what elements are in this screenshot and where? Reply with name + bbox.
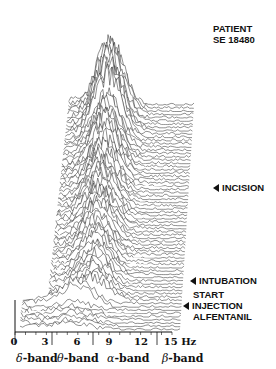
x-tick-15: 15 Hz bbox=[164, 336, 197, 347]
band-suffix: -band bbox=[114, 352, 149, 365]
band-suffix: -band bbox=[23, 352, 58, 365]
arrow-left-icon bbox=[183, 302, 189, 310]
patient-id: SE 18480 bbox=[213, 34, 255, 45]
theta-band-label: θ-band bbox=[57, 352, 99, 365]
patient-label-line1: PATIENT bbox=[213, 23, 255, 34]
x-tick-6: 6 bbox=[74, 336, 81, 347]
incision-label: INCISION bbox=[222, 182, 264, 193]
delta-symbol: δ bbox=[16, 352, 23, 365]
beta-band-label: β-band bbox=[162, 352, 203, 365]
alfentanil-label: ALFENTANIL bbox=[193, 311, 252, 322]
x-tick-12: 12 bbox=[134, 336, 148, 347]
alpha-band-label: α-band bbox=[107, 352, 150, 365]
annotation-intubation: INTUBATION bbox=[190, 275, 257, 286]
x-tick-0: 0 bbox=[11, 336, 18, 347]
band-suffix: -band bbox=[168, 352, 203, 365]
delta-band-label: δ-band bbox=[16, 352, 58, 365]
annotation-alfentanil: ALFENTANIL bbox=[193, 311, 252, 322]
band-suffix: -band bbox=[64, 352, 99, 365]
patient-label: PATIENT SE 18480 bbox=[213, 23, 255, 45]
start-label: START bbox=[193, 289, 224, 300]
arrow-left-icon bbox=[190, 277, 196, 285]
x-tick-3: 3 bbox=[42, 336, 49, 347]
intubation-label: INTUBATION bbox=[199, 275, 257, 286]
annotation-injection: INJECTION bbox=[183, 300, 243, 311]
annotation-incision: INCISION bbox=[213, 182, 264, 193]
annotation-start: START bbox=[193, 289, 224, 300]
x-tick-9: 9 bbox=[106, 336, 113, 347]
injection-label: INJECTION bbox=[192, 300, 243, 311]
arrow-left-icon bbox=[213, 184, 219, 192]
theta-symbol: θ bbox=[57, 352, 64, 365]
